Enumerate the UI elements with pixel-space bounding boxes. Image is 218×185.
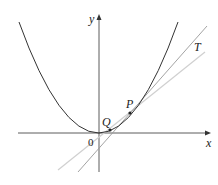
x-axis-arrow-icon [205, 131, 211, 136]
diagram-canvas: y x 0 P Q T [0, 0, 218, 185]
origin-label: 0 [88, 136, 94, 148]
x-axis-label: x [205, 136, 212, 150]
parabola-curve [19, 22, 178, 133]
point-P-label: P [125, 97, 134, 111]
point-Q-label: Q [102, 115, 111, 129]
tangent-T-label: T [194, 40, 202, 54]
point-P [128, 111, 131, 114]
y-axis-arrow-icon [97, 14, 102, 20]
y-axis-label: y [88, 12, 95, 26]
